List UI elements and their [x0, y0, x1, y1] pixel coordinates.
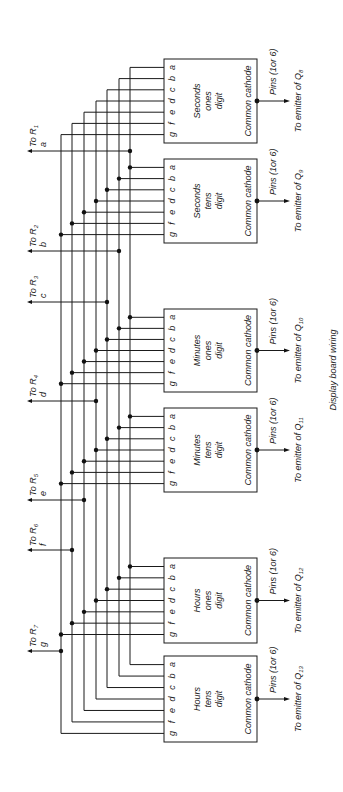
junction-dot: [94, 199, 98, 203]
junction-dot: [70, 621, 74, 625]
emitter-label: To emitter of Q8: [293, 69, 304, 132]
arrow-right-icon: [284, 697, 290, 701]
junction-dot: [82, 498, 86, 502]
arrow-left-icon: [27, 300, 32, 304]
segment-letter-b: b: [38, 242, 48, 247]
bus-line-g: [61, 135, 164, 734]
digit-display: abcdefgHoursonesdigitCommon cathodePins …: [164, 548, 304, 643]
digit-name: tens: [203, 441, 213, 459]
digit-name: Hours: [192, 687, 202, 712]
pin-label-a: a: [167, 165, 177, 170]
digit-name: ones: [203, 340, 213, 360]
emitter-label: To emitter of Q9: [293, 169, 304, 232]
junction-dot: [105, 188, 109, 192]
digit-name: tens: [203, 192, 213, 210]
pin-label-b: b: [167, 575, 177, 580]
arrow-right-icon: [284, 199, 290, 203]
pin-label-c: c: [167, 685, 177, 690]
digit-name: ones: [203, 590, 213, 610]
labels-layer: To R1aTo R2bTo R3cTo R4dTo R5eTo R6fTo R…: [28, 125, 48, 647]
pin-label-a: a: [167, 65, 177, 70]
arrow-right-icon: [284, 599, 290, 603]
junction-dot: [59, 232, 63, 236]
digit-name: Seconds: [192, 183, 202, 219]
junction-dot: [94, 348, 98, 352]
segment-letter-g: g: [38, 642, 48, 647]
pin-label-e: e: [167, 609, 177, 614]
junction-dot: [117, 576, 121, 580]
pin-label-g: g: [167, 232, 177, 237]
pin-label-g: g: [167, 132, 177, 137]
digit-name: digit: [214, 92, 224, 109]
junction-dot: [94, 399, 98, 403]
digit-name: Seconds: [192, 83, 202, 119]
junction-dot: [128, 564, 132, 568]
arrow-right-icon: [284, 99, 290, 103]
display-board-wiring-diagram: abcdefgSecondsonesdigitCommon cathodePin…: [0, 0, 343, 792]
digit-display: abcdefgHourstensdigitCommon cathodePins …: [164, 646, 304, 742]
junction-dot: [128, 414, 132, 418]
pin-label-c: c: [167, 436, 177, 441]
pin-label-e: e: [167, 459, 177, 464]
pin-label-c: c: [167, 586, 177, 591]
junction-dot: [105, 587, 109, 591]
arrow-left-icon: [27, 399, 32, 403]
junction-dot: [82, 610, 86, 614]
junction-dot: [128, 149, 132, 153]
pin-label-g: g: [167, 481, 177, 486]
emitter-label: To emitter of Q11: [293, 417, 304, 482]
junction-dot: [82, 359, 86, 363]
digit-display: abcdefgMinutestensdigitCommon cathodePin…: [164, 397, 304, 492]
junction-dot: [117, 249, 121, 253]
pin-label-b: b: [167, 76, 177, 81]
pin-label-e: e: [167, 708, 177, 713]
bus-line-c: [107, 90, 164, 688]
bus-line-a: [130, 67, 164, 664]
pin-label-g: g: [167, 381, 177, 386]
bus-line-b: [119, 79, 164, 676]
junction-dot: [70, 370, 74, 374]
common-cathode-label: Common cathode: [243, 565, 253, 636]
wiring-layer: [27, 67, 164, 733]
segment-letter-c: c: [38, 293, 48, 298]
pin-label-e: e: [167, 359, 177, 364]
common-cathode-label: Common cathode: [243, 663, 253, 734]
common-cathode-label: Common cathode: [243, 65, 253, 136]
pin-label-a: a: [167, 414, 177, 419]
segment-letter-f: f: [38, 542, 48, 546]
junction-dot: [59, 632, 63, 636]
digit-name: Minutes: [192, 434, 202, 466]
arrow-right-icon: [284, 448, 290, 452]
segment-letter-d: d: [38, 391, 48, 397]
arrow-left-icon: [27, 548, 32, 552]
junction-dot: [94, 448, 98, 452]
diagram-caption: Display board wiring: [328, 329, 338, 410]
segment-letter-a: a: [38, 142, 48, 147]
emitter-label: To emitter of Q12: [293, 567, 304, 634]
digit-name: digit: [214, 441, 224, 458]
pins-label: Pins (1or 6): [268, 298, 278, 345]
pin-label-g: g: [167, 632, 177, 637]
junction-dot: [117, 425, 121, 429]
junction-dot: [82, 459, 86, 463]
junction-dot: [70, 470, 74, 474]
arrow-left-icon: [27, 649, 32, 653]
digit-name: digit: [214, 690, 224, 707]
common-cathode-label: Common cathode: [243, 315, 253, 386]
pins-label: Pins (1or 6): [268, 646, 278, 693]
digit-name: digit: [214, 592, 224, 609]
common-cathode-label: Common cathode: [243, 414, 253, 485]
pin-label-a: a: [167, 662, 177, 667]
junction-dot: [105, 437, 109, 441]
junction-dot: [117, 326, 121, 330]
pin-label-c: c: [167, 87, 177, 92]
pins-label: Pins (1or 6): [268, 148, 278, 195]
junction-dot: [128, 315, 132, 319]
digit-display: abcdefgSecondsonesdigitCommon cathodePin…: [164, 48, 304, 143]
junction-dot: [70, 548, 74, 552]
digit-name: tens: [203, 690, 213, 708]
pin-label-b: b: [167, 176, 177, 181]
junction-dot: [128, 165, 132, 169]
junction-dot: [59, 649, 63, 653]
arrow-right-icon: [284, 349, 290, 353]
